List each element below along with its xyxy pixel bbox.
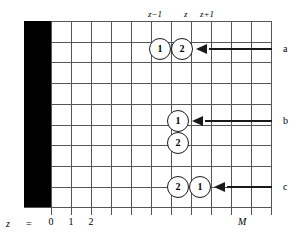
column-caption-1: z−1 — [148, 9, 162, 19]
axis-tick — [231, 207, 232, 215]
grid-line-horizontal — [51, 125, 271, 126]
axis-tick — [211, 207, 212, 215]
grid-line-vertical — [71, 21, 72, 207]
annotation-label-a: a — [283, 43, 287, 54]
column-caption-3: z+1 — [200, 9, 214, 19]
annotation-arrowhead-a — [196, 44, 207, 54]
particle-c-2: 2 — [167, 176, 189, 198]
lattice-diagram: z−1zz+1z=012M121221abc — [0, 0, 300, 237]
particle-c-1: 1 — [189, 176, 211, 198]
axis-tick-label-1: 1 — [65, 216, 77, 227]
grid-line-vertical — [51, 21, 52, 207]
grid-line-horizontal — [51, 21, 271, 22]
particle-a-1: 1 — [149, 38, 171, 60]
wall-barrier — [24, 21, 51, 207]
axis-max-label: M — [238, 216, 246, 227]
axis-tick — [191, 207, 192, 215]
axis-tick — [131, 207, 132, 215]
axis-tick-label-0: 0 — [45, 216, 57, 227]
grid-line-vertical — [111, 21, 112, 207]
annotation-label-b: b — [283, 115, 288, 126]
annotation-arrowhead-c — [214, 182, 225, 192]
axis-variable-label: z — [6, 218, 10, 229]
particle-b-1: 1 — [167, 110, 189, 132]
column-caption-2: z — [184, 9, 188, 19]
grid-line-vertical — [131, 21, 132, 207]
axis-tick — [91, 207, 92, 215]
grid-line-horizontal — [51, 166, 271, 167]
axis-tick — [271, 207, 272, 215]
annotation-line-a — [209, 48, 272, 49]
axis-tick — [171, 207, 172, 215]
axis-tick-label-2: 2 — [85, 216, 97, 227]
particle-b-2: 2 — [167, 132, 189, 154]
grid-line-bottom — [24, 207, 271, 208]
axis-tick — [151, 207, 152, 215]
grid-line-horizontal — [51, 62, 271, 63]
axis-tick — [251, 207, 252, 215]
annotation-line-b — [205, 120, 272, 121]
grid-line-horizontal — [51, 83, 271, 84]
axis-tick — [71, 207, 72, 215]
annotation-arrowhead-b — [192, 116, 203, 126]
annotation-label-c: c — [283, 181, 287, 192]
axis-tick — [51, 207, 52, 215]
grid-line-vertical — [91, 21, 92, 207]
axis-tick — [111, 207, 112, 215]
grid-line-horizontal — [51, 145, 271, 146]
grid-line-horizontal — [51, 104, 271, 105]
annotation-line-c — [227, 186, 272, 187]
axis-equals-sign: = — [26, 218, 32, 229]
particle-a-2: 2 — [171, 38, 193, 60]
